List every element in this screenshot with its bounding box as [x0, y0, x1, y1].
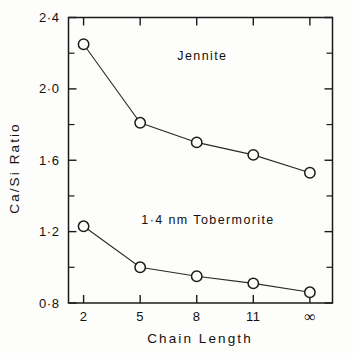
data-point-marker	[305, 168, 315, 178]
data-point-marker	[135, 262, 145, 272]
y-tick-label: 2·0	[39, 81, 60, 96]
data-point-marker	[192, 271, 202, 281]
x-tick-label: 5	[136, 309, 144, 324]
series-label: Jennite	[177, 49, 227, 63]
series-label: 1·4 nm Tobermorite	[141, 213, 274, 227]
y-tick-label: 1·2	[39, 224, 60, 239]
chart-figure: 0·81·21·62·02·4 25811∞ Jennite1·4 nm Tob…	[0, 0, 353, 353]
data-point-marker	[78, 221, 88, 231]
x-axis-title: Chain Length	[147, 331, 253, 346]
data-point-marker	[135, 118, 145, 128]
data-point-marker	[78, 39, 88, 49]
y-axis-title: Ca/Si Ratio	[7, 122, 22, 213]
x-tick-label: 8	[193, 309, 201, 324]
x-tick-label: ∞	[304, 308, 315, 325]
x-tick-label: 2	[80, 309, 88, 324]
ca-si-ratio-vs-chain-length-chart: 0·81·21·62·02·4 25811∞ Jennite1·4 nm Tob…	[0, 0, 353, 353]
data-point-marker	[192, 137, 202, 147]
y-tick-label: 2·4	[39, 10, 60, 25]
data-point-marker	[305, 287, 315, 297]
y-tick-label: 0·8	[39, 296, 60, 311]
data-point-marker	[248, 278, 258, 288]
x-tick-label: 11	[246, 309, 261, 324]
y-tick-label: 1·6	[39, 153, 60, 168]
data-point-marker	[248, 150, 258, 160]
